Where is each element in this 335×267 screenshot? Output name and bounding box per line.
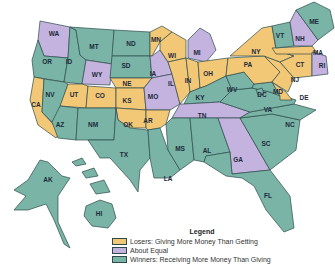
- legend-label-losers: Losers: Giving More Money Than Getting: [130, 238, 258, 245]
- svg-text:WA: WA: [49, 30, 60, 37]
- svg-text:HI: HI: [96, 210, 103, 217]
- svg-text:VA: VA: [264, 106, 273, 113]
- svg-text:NC: NC: [285, 121, 295, 128]
- svg-text:NV: NV: [45, 91, 55, 98]
- svg-text:AK: AK: [43, 176, 53, 183]
- svg-text:ID: ID: [66, 58, 73, 65]
- svg-text:NJ: NJ: [291, 76, 300, 83]
- svg-text:IL: IL: [168, 80, 174, 87]
- legend-item-losers: Losers: Giving More Money Than Getting: [112, 237, 312, 246]
- svg-text:NE: NE: [122, 80, 132, 87]
- svg-text:LA: LA: [164, 175, 173, 182]
- svg-text:TX: TX: [120, 151, 129, 158]
- map-legend: Legend Losers: Giving More Money Than Ge…: [112, 228, 312, 264]
- svg-text:ND: ND: [126, 40, 136, 47]
- legend-swatch-winners: [112, 256, 127, 263]
- svg-text:DE: DE: [299, 94, 309, 101]
- svg-text:CA: CA: [31, 101, 41, 108]
- state-AK: [14, 160, 70, 248]
- state-SD: [110, 56, 152, 78]
- svg-text:KY: KY: [195, 94, 205, 101]
- svg-text:VT: VT: [276, 32, 284, 39]
- svg-text:TN: TN: [198, 112, 207, 119]
- svg-text:OK: OK: [123, 121, 133, 128]
- legend-item-winners: Winners: Receiving More Money Than Givin…: [112, 255, 312, 264]
- island-2: [82, 168, 98, 178]
- svg-text:AR: AR: [143, 117, 153, 124]
- svg-text:NH: NH: [295, 35, 305, 42]
- svg-text:MO: MO: [148, 93, 158, 100]
- svg-text:MA: MA: [313, 49, 323, 56]
- svg-text:NY: NY: [251, 48, 261, 55]
- svg-text:UT: UT: [70, 91, 79, 98]
- svg-text:MD: MD: [273, 88, 283, 95]
- svg-text:AZ: AZ: [56, 121, 65, 128]
- svg-text:WY: WY: [92, 71, 103, 78]
- svg-text:SD: SD: [121, 62, 130, 69]
- svg-text:AL: AL: [203, 147, 212, 154]
- svg-text:IA: IA: [150, 70, 157, 77]
- svg-text:KS: KS: [122, 97, 132, 104]
- legend-swatch-equal: [112, 247, 127, 254]
- svg-text:NM: NM: [88, 121, 98, 128]
- island-1: [72, 158, 86, 166]
- svg-text:MI: MI: [193, 49, 200, 56]
- svg-text:CT: CT: [296, 61, 305, 68]
- legend-item-equal: About Equal: [112, 246, 312, 255]
- us-states-map: WA OR CA ID NV MT WY UT CO AZ NM ND SD N…: [0, 0, 335, 267]
- svg-text:WV: WV: [227, 86, 238, 93]
- svg-text:CO: CO: [95, 92, 105, 99]
- svg-text:MS: MS: [175, 145, 185, 152]
- svg-text:FL: FL: [264, 192, 272, 199]
- svg-text:PA: PA: [244, 61, 253, 68]
- svg-text:GA: GA: [233, 156, 243, 163]
- svg-text:DC: DC: [257, 91, 267, 98]
- legend-label-winners: Winners: Receiving More Money Than Givin…: [130, 256, 271, 263]
- svg-text:MN: MN: [151, 36, 161, 43]
- legend-swatch-losers: [112, 238, 127, 245]
- island-3: [90, 180, 110, 194]
- state-MI: [188, 28, 216, 62]
- svg-text:OR: OR: [42, 58, 52, 65]
- legend-title: Legend: [92, 228, 312, 235]
- svg-text:WI: WI: [168, 52, 176, 59]
- legend-label-equal: About Equal: [130, 247, 168, 254]
- svg-text:IN: IN: [185, 77, 192, 84]
- svg-text:MT: MT: [89, 43, 98, 50]
- svg-text:RI: RI: [319, 62, 326, 69]
- svg-text:OH: OH: [203, 70, 213, 77]
- svg-text:SC: SC: [261, 140, 270, 147]
- svg-text:ME: ME: [309, 18, 319, 25]
